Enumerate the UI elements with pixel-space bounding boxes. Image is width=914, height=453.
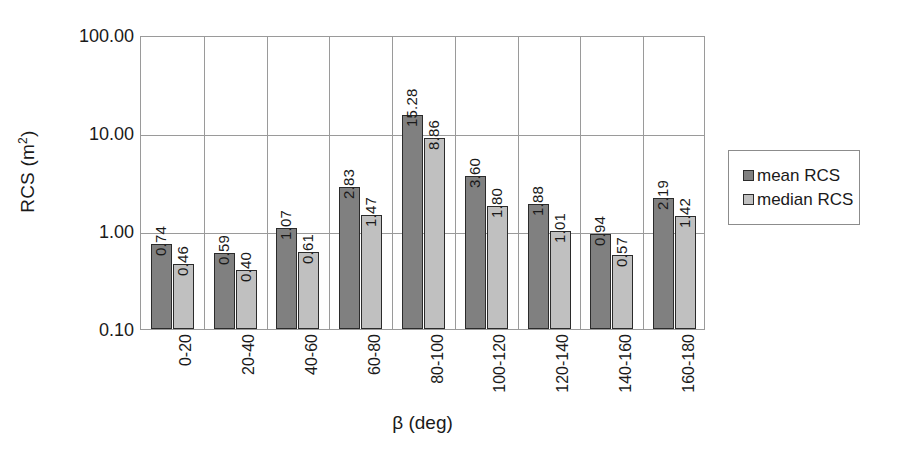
bar-value-label: 1.01: [552, 213, 567, 243]
bar-group: 3.601.80: [455, 37, 518, 329]
x-axis-tick-label: 20-40: [241, 334, 257, 375]
rcs-bar-chart-figure: RCS (m2) 100.0010.001.000.10 0.740.460.5…: [0, 0, 914, 453]
bar-value-label: 1.07: [278, 210, 293, 240]
bar-value-label: 1.42: [677, 198, 692, 228]
bar-group: 0.590.40: [204, 37, 267, 329]
bar-mean-rcs: [465, 176, 486, 329]
bar-value-label: 2.83: [341, 169, 356, 199]
legend-swatch-icon: [743, 194, 754, 205]
bar-group: 0.740.46: [141, 37, 204, 329]
bar-value-label: 0.57: [614, 237, 629, 267]
bar-mean-rcs: [590, 234, 611, 329]
x-axis-tick-label: 60-80: [367, 334, 383, 375]
x-axis-tick-labels: 0-2020-4040-6060-8080-100100-120120-1401…: [140, 334, 705, 414]
bar-median-rcs: [424, 138, 445, 329]
x-axis-tick-label: 160-180: [681, 334, 697, 393]
bar-median-rcs: [675, 216, 696, 329]
bar-group: 2.191.42: [643, 37, 706, 329]
bar-value-label: 0.61: [300, 234, 315, 264]
bar-group: 2.831.47: [329, 37, 392, 329]
y-axis-title: RCS (m2): [16, 92, 39, 252]
x-axis-title: β (deg): [140, 412, 705, 434]
legend-item-label: mean RCS: [757, 167, 840, 184]
bar-mean-rcs: [653, 198, 674, 329]
bar-value-label: 15.28: [404, 88, 419, 127]
bar-group: 1.881.01: [518, 37, 581, 329]
bar-median-rcs: [487, 206, 508, 329]
bar-value-label: 0.59: [216, 235, 231, 265]
bar-mean-rcs: [339, 187, 360, 329]
y-axis-tick-label: 0.10: [46, 321, 134, 339]
y-axis-tick-labels: 100.0010.001.000.10: [46, 0, 134, 453]
bar-value-label: 0.40: [238, 252, 253, 282]
x-axis-tick-label: 140-160: [618, 334, 634, 393]
bar-group: 0.940.57: [580, 37, 643, 329]
bar-mean-rcs: [402, 115, 423, 329]
y-axis-tick-label: 1.00: [46, 223, 134, 241]
bar-value-label: 0.74: [153, 226, 168, 256]
x-axis-tick-label: 80-100: [430, 334, 446, 384]
bar-group: 1.070.61: [267, 37, 330, 329]
bar-value-label: 8.86: [426, 120, 441, 150]
y-axis-title-text: RCS (m2): [18, 131, 39, 213]
x-axis-tick-label: 120-140: [555, 334, 571, 393]
x-axis-tick-label: 0-20: [178, 334, 194, 366]
chart-legend: mean RCSmedian RCS: [728, 150, 860, 225]
x-axis-tick-label: 100-120: [492, 334, 508, 393]
bar-value-label: 3.60: [467, 158, 482, 188]
plot-area: 0.740.460.590.401.070.612.831.4715.288.8…: [140, 36, 705, 330]
bar-mean-rcs: [151, 244, 172, 329]
x-axis-tick-label: 40-60: [304, 334, 320, 375]
bar-value-label: 1.80: [489, 188, 504, 218]
y-axis-tick-label: 100.00: [46, 27, 134, 45]
legend-item: mean RCS: [743, 165, 859, 186]
legend-item: median RCS: [743, 189, 859, 210]
y-axis-tick-label: 10.00: [46, 125, 134, 143]
bar-value-label: 0.94: [592, 216, 607, 246]
legend-item-label: median RCS: [757, 191, 853, 208]
bar-mean-rcs: [276, 228, 297, 329]
bar-value-label: 2.19: [655, 180, 670, 210]
bar-median-rcs: [550, 231, 571, 329]
bar-value-label: 1.47: [363, 197, 378, 227]
bar-group: 15.288.86: [392, 37, 455, 329]
bar-value-label: 1.88: [530, 186, 545, 216]
bar-median-rcs: [361, 215, 382, 329]
bar-mean-rcs: [528, 204, 549, 329]
legend-swatch-icon: [743, 170, 754, 181]
bar-value-label: 0.46: [175, 246, 190, 276]
